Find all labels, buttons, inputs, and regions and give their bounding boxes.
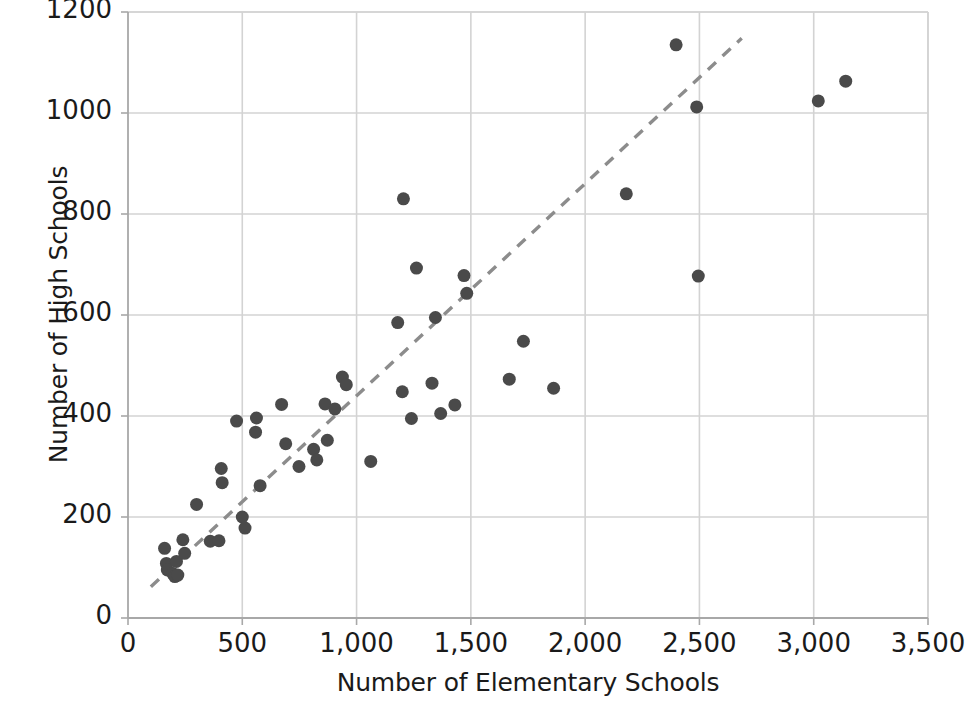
data-point [215,462,228,475]
data-point [279,437,292,450]
data-point [690,100,703,113]
data-point [292,460,305,473]
data-point [321,434,334,447]
data-point [448,398,461,411]
data-point [692,270,705,283]
data-point [158,542,171,555]
data-point [340,378,353,391]
data-point [275,398,288,411]
data-point [249,426,262,439]
x-tick-label: 1,500 [434,628,508,658]
data-point [458,269,471,282]
x-tick-label: 2,500 [662,628,736,658]
x-tick-label: 3,000 [776,628,850,658]
data-point-series [158,38,852,583]
data-point [426,377,439,390]
data-point [171,569,184,582]
data-point [839,75,852,88]
data-point [230,415,243,428]
data-point [460,287,473,300]
data-point [328,402,341,415]
data-point [812,94,825,107]
x-tick-label: 3,500 [891,628,965,658]
data-point [236,511,249,524]
data-point [620,187,633,200]
data-point [212,534,225,547]
data-point [391,316,404,329]
y-axis-title: Number of High Schools [44,5,73,625]
data-point [503,373,516,386]
data-point [364,455,377,468]
data-point [517,335,530,348]
data-point [216,476,229,489]
x-tick-label: 500 [217,628,267,658]
data-point [397,192,410,205]
data-point [410,262,423,275]
data-point [190,498,203,511]
data-point [396,385,409,398]
data-point [405,412,418,425]
data-point [176,533,189,546]
data-point [178,547,191,560]
x-tick-label: 0 [120,628,137,658]
data-point [670,38,683,51]
data-point [239,522,252,535]
data-point [434,407,447,420]
x-axis-tick-labels: 05001,0001,5002,0002,5003,0003,500 [0,628,949,668]
data-point [547,382,560,395]
data-point [310,453,323,466]
data-point [429,311,442,324]
x-tick-label: 1,000 [319,628,393,658]
trend-line [151,38,742,586]
x-tick-label: 2,000 [548,628,622,658]
x-axis-title: Number of Elementary Schools [128,668,928,697]
data-point [254,479,267,492]
data-point [250,412,263,425]
